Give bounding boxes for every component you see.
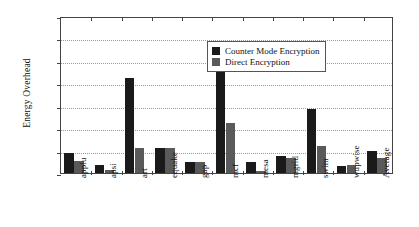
bar <box>64 153 74 173</box>
y-tick-mark <box>57 40 61 41</box>
y-tick-mark <box>57 63 61 64</box>
bar <box>185 162 195 173</box>
x-tick-mark <box>182 171 183 175</box>
x-tick-mark <box>91 17 92 21</box>
x-tick-mark <box>152 17 153 21</box>
x-tick-label: Average <box>382 147 391 178</box>
x-tick-mark <box>152 171 153 175</box>
energy-overhead-bar-chart: Energy Overhead 0%2%4%6%8%10%12%14% appl… <box>0 0 419 227</box>
bar-group <box>155 18 175 173</box>
x-tick-mark <box>122 171 123 175</box>
y-tick-mark <box>57 175 61 176</box>
legend-item: Direct Encryption <box>212 57 319 67</box>
y-tick-mark <box>57 85 61 86</box>
x-tick-label: apsi <box>109 163 118 178</box>
x-tick-mark <box>243 171 244 175</box>
legend-swatch-icon <box>212 58 220 66</box>
x-tick-mark <box>273 17 274 21</box>
x-tick-label: mesa <box>261 159 270 178</box>
x-tick-mark <box>212 171 213 175</box>
bar <box>276 156 286 173</box>
x-tick-label: gap <box>200 165 209 178</box>
y-tick-mark <box>57 130 61 131</box>
x-tick-mark <box>303 17 304 21</box>
chart-legend: Counter Mode EncryptionDirect Encryption <box>207 41 326 72</box>
bar <box>337 166 347 173</box>
x-tick-label: wupwise <box>352 145 361 178</box>
bar <box>246 162 256 173</box>
x-tick-mark <box>303 171 304 175</box>
x-tick-label: swim <box>321 158 330 178</box>
bar-group <box>185 18 205 173</box>
x-tick-mark <box>333 17 334 21</box>
x-tick-mark <box>182 17 183 21</box>
x-tick-label: applu <box>79 158 88 179</box>
bar-group <box>64 18 84 173</box>
legend-item: Counter Mode Encryption <box>212 46 319 56</box>
y-axis-title: Energy Overhead <box>22 23 32 163</box>
x-tick-mark <box>243 17 244 21</box>
bar <box>95 165 105 173</box>
x-tick-mark <box>212 17 213 21</box>
x-tick-mark <box>364 171 365 175</box>
y-tick-mark <box>57 108 61 109</box>
bar <box>125 78 135 173</box>
y-tick-mark <box>57 153 61 154</box>
x-tick-mark <box>122 17 123 21</box>
bar <box>155 148 165 173</box>
legend-label: Counter Mode Encryption <box>225 47 319 56</box>
x-tick-mark <box>273 171 274 175</box>
bar-group <box>95 18 115 173</box>
y-tick-mark <box>57 18 61 19</box>
x-tick-label: equake <box>170 152 179 178</box>
x-tick-mark <box>333 171 334 175</box>
x-tick-mark <box>364 17 365 21</box>
bar <box>367 151 377 173</box>
x-tick-label: art <box>140 168 149 178</box>
x-tick-label: mcf <box>231 164 240 178</box>
x-tick-label: mgrid <box>291 156 300 178</box>
legend-swatch-icon <box>212 47 220 55</box>
legend-label: Direct Encryption <box>225 58 290 67</box>
bar-group <box>125 18 145 173</box>
x-tick-mark <box>91 171 92 175</box>
bar <box>307 109 317 173</box>
